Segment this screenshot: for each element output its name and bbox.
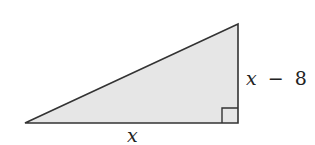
base-label: x bbox=[127, 124, 138, 145]
right-triangle bbox=[25, 24, 238, 123]
height-variable: x bbox=[246, 67, 257, 89]
height-operator: − bbox=[268, 67, 284, 89]
height-label: x − 8 bbox=[246, 67, 307, 89]
height-constant: 8 bbox=[295, 67, 307, 89]
triangle-diagram: x − 8 x bbox=[0, 0, 315, 145]
